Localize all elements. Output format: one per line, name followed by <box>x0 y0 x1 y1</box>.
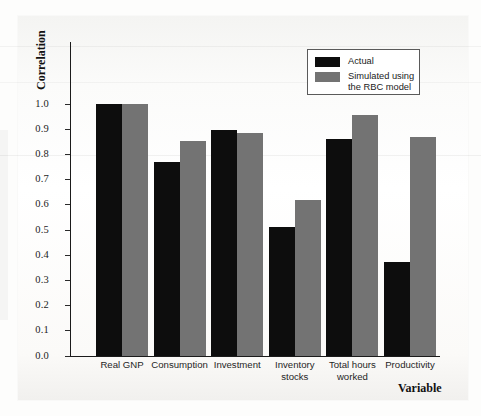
x-axis-title: Variable <box>398 381 442 396</box>
bar <box>384 262 410 357</box>
bar <box>180 141 206 356</box>
bar <box>122 104 148 356</box>
legend-label: Actual <box>348 56 374 67</box>
legend-entry: Simulated using the RBC model <box>315 71 414 93</box>
legend-swatch <box>315 72 340 82</box>
bar <box>269 227 295 356</box>
bar <box>237 133 263 356</box>
bar <box>211 130 237 356</box>
bar <box>326 139 352 356</box>
bar-chart: Correlation 1.00.90.80.70.60.50.40.30.20… <box>0 0 481 416</box>
legend-swatch <box>315 57 340 67</box>
bar <box>154 162 180 356</box>
legend-entry: Actual <box>315 56 374 67</box>
bar <box>352 115 378 356</box>
legend-label: Simulated using the RBC model <box>348 71 414 93</box>
bar <box>96 104 122 356</box>
bar <box>295 200 321 356</box>
x-axis-category-label: Productivity <box>374 359 446 371</box>
chart-legend: ActualSimulated using the RBC model <box>307 49 420 95</box>
bar <box>410 137 436 356</box>
